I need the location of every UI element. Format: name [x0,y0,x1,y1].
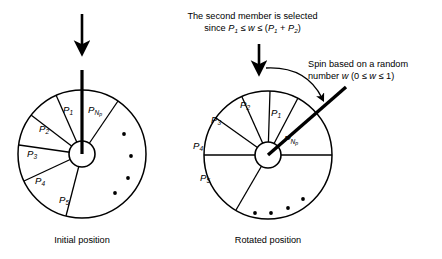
caption-initial-position: Initial position [22,235,142,245]
ellipsis-dot [286,206,290,210]
sector-label-sub: 1 [69,109,73,116]
ellipsis-dot [126,176,130,180]
roulette-wheel-selection-figure: The second member is selected since P1 ≤… [0,0,442,259]
top-note-line2: since P1 ≤ w ≤ (P1 + P2) [160,22,345,37]
top-note-rel2: ≤ ( [255,23,268,33]
sector-label-sub: 4 [41,180,45,187]
top-note-rel1: ≤ [238,23,248,33]
spin-note-w2: w [369,71,376,81]
sector-label-sub-p: p [99,111,102,117]
top-note-line1: The second member is selected [160,10,345,22]
sector-label-sub: Np [94,109,102,116]
ellipsis-dot [269,211,273,215]
wheel-initial [18,70,146,218]
sector-label-sub: 3 [217,119,221,126]
figure-canvas [0,0,442,259]
wheel-rotated-sector-label-p4: P4 [193,140,203,152]
wheel-rotated-sector-label-pnp: PNp [284,133,298,146]
wheel-rotated-sector-label-p5: P5 [200,172,210,184]
spin-note-line1: Spin based on a random [308,58,442,70]
wheel-rotated-sector-label-p2: P2 [240,99,250,111]
wheel-rotated-sector-label-p1: P1 [271,107,281,119]
sector-label-sub: 5 [206,177,210,184]
spin-note-number: number [308,71,342,81]
sector-label-sub: 3 [33,153,37,160]
ellipsis-dot [253,211,257,215]
wheel-initial-sector-label-p1: P1 [63,104,73,116]
wheel-initial-sector-label-p5: P5 [59,194,69,206]
wheel-rotated-sector-label-p3: P3 [211,114,221,126]
sector-label-sub: Np [290,138,298,145]
wheel-initial-sector-label-pnp: PNp [88,104,102,117]
caption-rotated-position: Rotated position [208,235,328,245]
spin-note-line2: number w (0 ≤ w ≤ 1) [308,70,442,82]
top-note-since: since [204,23,228,33]
wheel-initial-sector-label-p3: P3 [27,148,37,160]
wheel-initial-sector-label-p4: P4 [35,175,45,187]
sector-label-sub-p: p [295,140,298,146]
spin-note-annotation: Spin based on a random number w (0 ≤ w ≤… [308,58,442,82]
top-note-plus: + [278,23,288,33]
ellipsis-dot [113,191,117,195]
top-note-w: w [248,23,255,33]
sector-label-sub: 5 [65,199,69,206]
sector-label-sub: 4 [199,145,203,152]
ellipsis-dot [122,132,126,136]
top-note-close: ) [298,23,301,33]
top-note-annotation: The second member is selected since P1 ≤… [160,10,345,37]
spin-note-paren: (0 ≤ [348,71,369,81]
ellipsis-dot [129,154,133,158]
ellipsis-dot [301,197,305,201]
spin-note-rel: ≤ 1) [376,71,394,81]
sector-label-sub: 2 [45,128,49,135]
wheel-initial-sector-label-p2: P2 [39,123,49,135]
sector-label-sub: 1 [277,112,281,119]
sector-label-sub: 2 [246,104,250,111]
